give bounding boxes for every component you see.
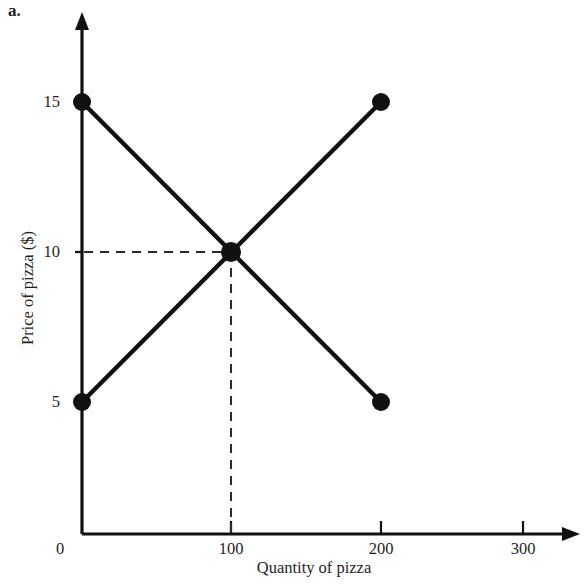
supply-point-0-5	[73, 393, 91, 411]
y-tick-label-15: 15	[26, 92, 60, 112]
x-axis-ticks	[231, 521, 523, 534]
x-axis-arrowhead	[562, 527, 580, 541]
y-tick-label-5: 5	[26, 392, 60, 412]
y-axis-title: Price of pizza ($)	[18, 198, 38, 378]
x-tick-label-300: 300	[493, 539, 553, 559]
supply-demand-chart	[0, 0, 587, 584]
x-tick-label-0: 0	[30, 539, 90, 559]
y-axis	[75, 12, 89, 534]
x-tick-label-200: 200	[351, 539, 411, 559]
y-axis-arrowhead	[75, 12, 89, 30]
x-axis-title: Quantity of pizza	[184, 558, 444, 578]
figure-container: a.	[0, 0, 587, 584]
equilibrium-guides	[84, 252, 231, 532]
x-tick-label-100: 100	[201, 539, 261, 559]
demand-point-0-15	[73, 93, 91, 111]
demand-point-200-5	[372, 393, 390, 411]
supply-point-200-15	[372, 93, 390, 111]
equilibrium-point-marker	[221, 242, 241, 262]
